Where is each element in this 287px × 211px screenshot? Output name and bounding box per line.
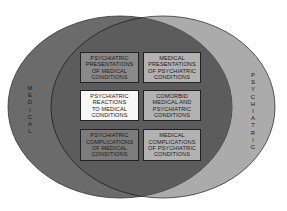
- label-letter: C: [28, 114, 32, 121]
- label-letter: P: [251, 72, 255, 79]
- box-psychiatric-reactions-to-medical: PSYCHIATRIC REACTIONS TO MEDICAL CONDITI…: [80, 90, 139, 121]
- label-letter: R: [251, 130, 255, 137]
- box-psychiatric-presentations-of-medical: PSYCHIATRIC PRESENTATIONS OF MEDICAL CON…: [80, 52, 139, 83]
- label-letter: A: [28, 121, 32, 128]
- label-letter: A: [251, 115, 255, 122]
- label-letter: C: [251, 94, 255, 101]
- label-letter: H: [251, 101, 255, 108]
- box-line: PSYCHIATRIC: [86, 132, 133, 138]
- box-line: CONDITIONS: [153, 112, 192, 118]
- box-line: OF PSYCHIATRIC: [148, 68, 196, 74]
- label-letter: I: [252, 108, 254, 115]
- label-letter: I: [252, 137, 254, 144]
- box-line: TO MEDICAL: [90, 106, 128, 112]
- label-letter: C: [251, 144, 255, 151]
- psychiatric-set-label: P S Y C H I A T R I C: [249, 72, 257, 151]
- box-line: PRESENTATIONS: [148, 61, 196, 67]
- label-letter: I: [29, 107, 31, 114]
- label-letter: L: [28, 128, 31, 135]
- box-line: OF MEDICAL: [86, 68, 134, 74]
- box-line: CONDITIONS: [148, 151, 196, 157]
- box-line: CONDITIONS: [86, 74, 134, 80]
- label-letter: T: [251, 122, 255, 129]
- box-line: PSYCHIATRIC: [153, 106, 192, 112]
- box-line: CONDITIONS: [86, 151, 133, 157]
- box-line: PRESENTATIONS: [86, 61, 134, 67]
- label-letter: E: [28, 92, 32, 99]
- label-letter: D: [28, 99, 32, 106]
- box-line: REACTIONS: [90, 99, 128, 105]
- label-letter: S: [251, 79, 255, 86]
- label-letter: M: [28, 85, 33, 92]
- medical-set-label: M E D I C A L: [26, 85, 34, 135]
- box-comorbid-medical-and-psychiatric: COMORBID MEDICAL AND PSYCHIATRIC CONDITI…: [143, 90, 201, 121]
- box-line: CONDITIONS: [90, 112, 128, 118]
- box-medical-presentations-of-psychiatric: MEDICAL PRESENTATIONS OF PSYCHIATRIC CON…: [143, 52, 201, 83]
- box-line: MEDICAL AND: [153, 99, 192, 105]
- box-psychiatric-complications-of-medical: PSYCHIATRIC COMPLICATIONS OF MEDICAL CON…: [80, 129, 139, 161]
- label-letter: Y: [251, 86, 255, 93]
- box-line: CONDITIONS: [148, 74, 196, 80]
- box-medical-complications-of-psychiatric: MEDICAL COMPLICATIONS OF PSYCHIATRIC CON…: [143, 129, 201, 161]
